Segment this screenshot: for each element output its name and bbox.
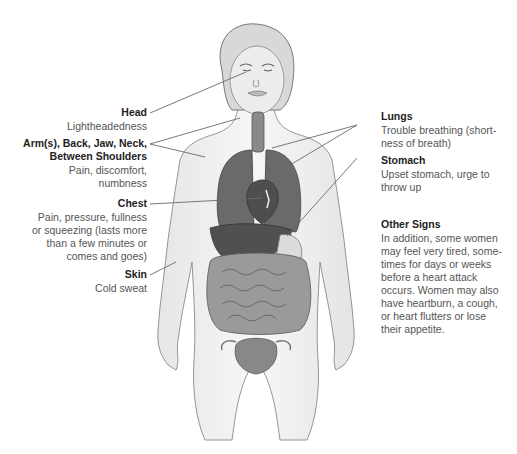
label-chest: Chest Pain, pressure, fullness or squeez…	[32, 197, 147, 263]
label-title: Stomach	[381, 154, 490, 167]
label-desc: their appetite.	[381, 323, 502, 336]
label-desc: Lightheadedness	[67, 120, 147, 133]
label-desc: times for days or weeks	[381, 258, 502, 271]
label-title: Arm(s), Back, Jaw, Neck,	[23, 137, 147, 150]
trachea	[252, 112, 264, 152]
label-desc: Trouble breathing (short-	[381, 124, 496, 137]
label-desc: throw up	[381, 181, 490, 194]
label-desc: before a heart attack	[381, 271, 502, 284]
label-other-signs: Other Signs In addition, some women may …	[381, 218, 502, 336]
label-title: Head	[67, 106, 147, 119]
label-stomach: Stomach Upset stomach, urge to throw up	[381, 154, 490, 194]
intestines	[207, 253, 311, 335]
label-desc: may feel very tired, some-	[381, 245, 502, 258]
label-desc: occurs. Women may also	[381, 284, 502, 297]
label-title: Between Shoulders	[23, 150, 147, 163]
label-desc: Upset stomach, urge to	[381, 168, 490, 181]
label-desc: ness of breath)	[381, 137, 496, 150]
label-title: Other Signs	[381, 218, 502, 231]
label-title: Chest	[32, 197, 147, 210]
label-desc: or heart flutters or lose	[381, 310, 502, 323]
label-desc: comes and goes)	[32, 250, 147, 263]
label-desc: Pain, pressure, fullness	[32, 211, 147, 224]
label-arms-back-jaw-neck: Arm(s), Back, Jaw, Neck, Between Shoulde…	[23, 137, 147, 190]
label-head: Head Lightheadedness	[67, 106, 147, 133]
label-desc: In addition, some women	[381, 232, 502, 245]
head-drawing	[220, 24, 294, 114]
label-skin: Skin Cold sweat	[95, 268, 147, 295]
label-lungs: Lungs Trouble breathing (short- ness of …	[381, 110, 496, 150]
label-title: Skin	[95, 268, 147, 281]
label-desc: Cold sweat	[95, 282, 147, 295]
label-desc: numbness	[23, 177, 147, 190]
label-title: Lungs	[381, 110, 496, 123]
label-desc: than a few minutes or	[32, 237, 147, 250]
label-desc: Pain, discomfort,	[23, 164, 147, 177]
label-desc: or squeezing (lasts more	[32, 224, 147, 237]
label-desc: have heartburn, a cough,	[381, 297, 502, 310]
